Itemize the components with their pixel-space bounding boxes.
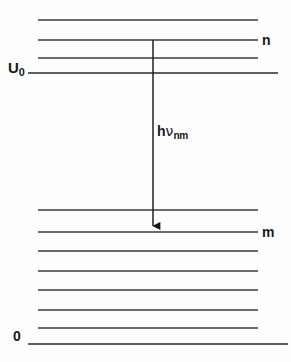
energy-level-diagram: U0 n m 0 hνnm	[0, 0, 291, 362]
energy-level-lines	[28, 20, 288, 344]
diagram-canvas	[0, 0, 291, 362]
